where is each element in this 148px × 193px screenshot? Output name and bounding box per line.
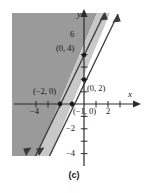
point-0-4 [82, 53, 87, 58]
point-label-0-4: (0, 4) [56, 44, 74, 53]
x-axis-label: x [128, 90, 132, 99]
x-axis-arrowhead [133, 100, 141, 107]
inequality-graph-figure: y x −4 2 6 −2 −4 (0, 4) (0, 2) (−2, 0) (… [0, 0, 148, 193]
point-label-0-2: (0, 2) [87, 84, 105, 93]
point-label-neg1-0: (−1, 0) [73, 107, 96, 116]
point-label-neg2-0: (−2, 0) [33, 87, 56, 96]
x-tick-label-2: 2 [106, 107, 110, 116]
figure-caption: (c) [0, 170, 148, 180]
point-0-2 [82, 77, 87, 82]
y-tick-label-6: 6 [70, 30, 74, 39]
arrowhead-lower-top [113, 14, 121, 23]
graph-canvas [0, 0, 148, 193]
y-axis-label: y [77, 10, 81, 19]
y-tick-label--2: −2 [66, 124, 75, 133]
x-tick-label--4: −4 [30, 107, 39, 116]
point-neg2-0 [58, 102, 63, 107]
y-tick-label--4: −4 [66, 149, 75, 158]
